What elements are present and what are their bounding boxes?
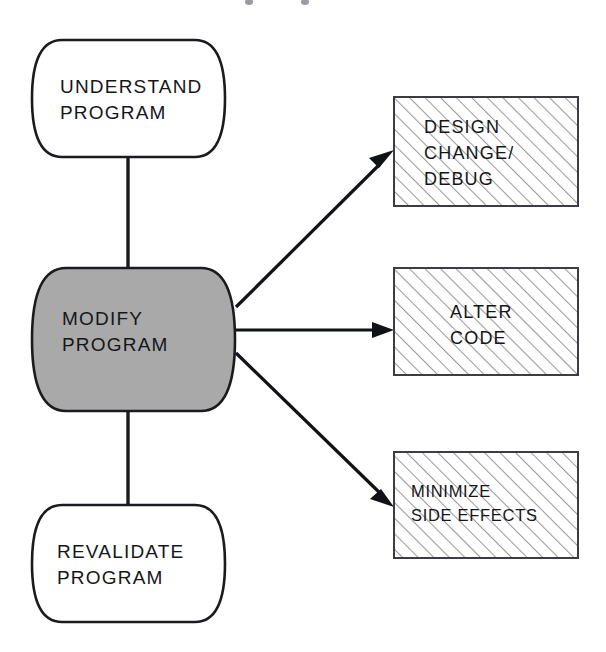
arrow-modify-to-design-change (236, 150, 394, 307)
alter-code-label-line-2: CODE (450, 328, 507, 348)
understand-program-label-line-2: PROGRAM (60, 102, 167, 123)
modify-program-label-line-2: PROGRAM (62, 334, 169, 355)
node-understand-program[interactable]: UNDERSTAND PROGRAM (32, 40, 225, 157)
diagram-canvas: UNDERSTAND PROGRAM MODIFY PROGRAM REVALI… (0, 0, 606, 652)
arrow-modify-to-minimize-side-effects (236, 353, 394, 507)
box-minimize-side-effects[interactable]: MINIMIZE SIDE EFFECTS (394, 452, 578, 558)
node-modify-program[interactable]: MODIFY PROGRAM (32, 268, 235, 411)
minimize-side-effects-label-line-2: SIDE EFFECTS (411, 506, 538, 524)
design-change-debug-label-line-2: CHANGE/ (424, 143, 514, 163)
revalidate-program-shape (32, 505, 225, 622)
minimize-side-effects-label-line-1: MINIMIZE (411, 482, 491, 500)
scan-artifact-specks (245, 0, 309, 5)
minimize-side-effects-shape (394, 452, 578, 558)
box-alter-code[interactable]: ALTER CODE (394, 268, 578, 375)
design-change-debug-label-line-1: DESIGN (424, 117, 500, 137)
arrow-modify-to-alter-code (236, 322, 394, 338)
revalidate-program-label-line-2: PROGRAM (57, 567, 164, 588)
design-change-debug-label-line-3: DEBUG (424, 169, 494, 189)
modify-program-label-line-1: MODIFY (62, 308, 143, 329)
node-revalidate-program[interactable]: REVALIDATE PROGRAM (32, 505, 225, 622)
alter-code-label-line-1: ALTER (450, 302, 513, 322)
box-design-change-debug[interactable]: DESIGN CHANGE/ DEBUG (394, 97, 578, 206)
understand-program-label-line-1: UNDERSTAND (60, 76, 203, 97)
understand-program-shape (32, 40, 225, 157)
revalidate-program-label-line-1: REVALIDATE (57, 541, 184, 562)
diagram-svg: UNDERSTAND PROGRAM MODIFY PROGRAM REVALI… (0, 0, 606, 652)
